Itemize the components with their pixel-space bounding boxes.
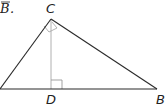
caption-letter: B: [0, 1, 10, 16]
vertex-label-d: D: [46, 92, 56, 107]
vertex-label-c: C: [46, 1, 56, 16]
triangle-diagram: B . C D B: [0, 0, 165, 108]
right-angle-marker-d: [51, 80, 62, 89]
caption-punct: .: [10, 1, 14, 16]
side-cb: [51, 19, 157, 89]
vertex-label-b: B: [156, 92, 165, 107]
side-ac: [0, 19, 51, 89]
